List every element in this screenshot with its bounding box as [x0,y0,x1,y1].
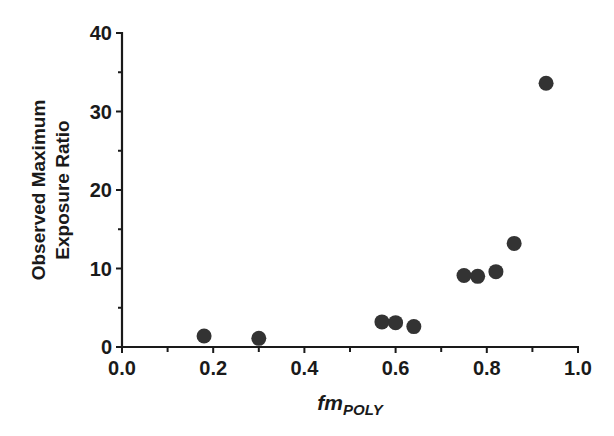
y-axis: 010203040 [90,22,122,358]
x-tick-label: 0.6 [382,357,410,379]
x-tick-label: 0.0 [108,357,136,379]
data-point-marker [507,236,522,251]
y-axis-title-line2: Exposure Ratio [52,120,73,259]
data-point-marker [488,264,503,279]
y-tick-label: 10 [90,258,112,280]
scatter-chart: 010203040 0.00.20.40.60.81.0 Observed Ma… [0,0,614,436]
data-point-marker [374,314,389,329]
x-axis-title-main: fm [317,391,343,414]
y-axis-title-line1: Observed Maximum [28,100,49,281]
x-axis-title: fmPOLY [317,391,384,418]
x-tick-label: 1.0 [564,357,592,379]
data-point-marker [197,329,212,344]
data-point-marker [539,76,554,91]
y-tick-label: 30 [90,101,112,123]
data-points [197,76,554,346]
data-point-marker [470,269,485,284]
data-point-marker [457,268,472,283]
y-tick-label: 20 [90,179,112,201]
x-tick-label: 0.2 [199,357,227,379]
x-axis: 0.00.20.40.60.81.0 [108,347,592,379]
x-tick-label: 0.4 [290,357,319,379]
data-point-marker [406,319,421,334]
y-tick-label: 0 [101,336,112,358]
x-axis-title-subscript: POLY [343,401,385,418]
y-tick-label: 40 [90,22,112,44]
x-tick-label: 0.8 [473,357,501,379]
data-point-marker [251,331,266,346]
data-point-marker [388,315,403,330]
